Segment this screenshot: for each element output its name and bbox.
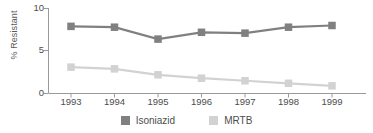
legend-label-isoniazid: Isoniazid: [136, 115, 175, 126]
data-point-mrtb-1999: [328, 82, 336, 90]
x-tick-label-1998: 1998: [269, 96, 309, 107]
x-tick-label-1993: 1993: [51, 96, 91, 107]
x-tick-label-1994: 1994: [95, 96, 135, 107]
resistance-trend-chart: % Resistant 10 5 0 199319941995199619971…: [0, 0, 373, 133]
data-point-isoniazid-1997: [241, 29, 249, 37]
data-point-isoniazid-1999: [328, 22, 336, 30]
data-point-mrtb-1998: [285, 80, 293, 88]
data-point-isoniazid-1996: [198, 29, 206, 37]
legend-swatch-icon-mrtb: [209, 116, 218, 125]
data-point-mrtb-1995: [154, 71, 162, 79]
chart-legend: IsoniazidMRTB: [0, 115, 373, 126]
data-point-isoniazid-1995: [154, 35, 162, 43]
data-point-isoniazid-1998: [285, 23, 293, 31]
data-point-mrtb-1996: [198, 74, 206, 82]
data-point-isoniazid-1994: [111, 23, 119, 31]
legend-swatch-icon-isoniazid: [121, 116, 130, 125]
x-tick-label-1997: 1997: [225, 96, 265, 107]
legend-item-isoniazid[interactable]: Isoniazid: [121, 115, 175, 126]
series-mrtb: [67, 63, 336, 89]
data-series-layer: [67, 22, 336, 90]
data-point-mrtb-1993: [67, 63, 75, 71]
x-tick-label-1996: 1996: [182, 96, 222, 107]
data-point-isoniazid-1993: [67, 23, 75, 31]
data-point-mrtb-1997: [241, 77, 249, 85]
plot-area: [0, 0, 373, 133]
data-point-mrtb-1994: [111, 65, 119, 73]
x-tick-label-1999: 1999: [312, 96, 352, 107]
legend-item-mrtb[interactable]: MRTB: [209, 115, 252, 126]
series-isoniazid: [67, 22, 336, 43]
legend-label-mrtb: MRTB: [224, 115, 252, 126]
x-tick-label-1995: 1995: [138, 96, 178, 107]
